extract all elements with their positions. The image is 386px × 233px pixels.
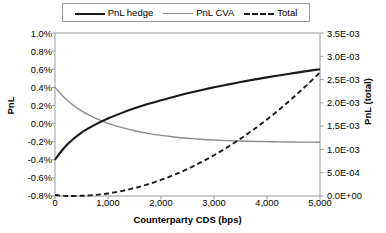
axis-frame xyxy=(55,33,320,196)
y-axis-right-ticks xyxy=(320,33,324,196)
x-axis-ticks xyxy=(55,196,320,200)
chart-figure: PnL hedge PnL CVA Total PnL PnL (total) … xyxy=(0,0,386,233)
y-axis-left-ticks xyxy=(52,33,56,196)
series-line-pnl-hedge xyxy=(55,69,320,160)
series-line-pnl-cva xyxy=(55,87,320,142)
plot-area xyxy=(0,0,386,233)
series-line-total xyxy=(55,72,320,196)
